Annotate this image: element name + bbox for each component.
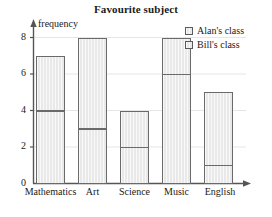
- legend-label-alans-class: Alan's class: [197, 26, 244, 36]
- x-tick-label-art: Art: [78, 187, 107, 197]
- x-tick-label-music: Music: [158, 187, 195, 197]
- y-axis-title: frequency: [38, 18, 78, 29]
- bar-segment-english-alans-class: [204, 92, 233, 166]
- x-tick-label-science: Science: [113, 187, 156, 197]
- chart-container: Favourite subject: [0, 0, 272, 217]
- bar-segment-mathematics-bills-class: [36, 111, 65, 184]
- legend-item-bills-class: Bill's class: [185, 38, 244, 52]
- bar-segment-science-alans-class: [120, 111, 149, 148]
- bar-segment-art-alans-class: [78, 38, 107, 130]
- y-tick-label-8: 8: [12, 32, 26, 42]
- bar-segment-music-bills-class: [162, 74, 191, 184]
- y-tick-label-6: 6: [12, 68, 26, 78]
- y-tick-label-4: 4: [12, 105, 26, 115]
- bar-segment-science-bills-class: [120, 147, 149, 184]
- legend-swatch-icon: [185, 41, 193, 49]
- y-tick-label-2: 2: [12, 141, 26, 151]
- bar-segment-mathematics-alans-class: [36, 56, 65, 111]
- bar-segment-art-bills-class: [78, 129, 107, 184]
- bar-segment-english-bills-class: [204, 165, 233, 183]
- x-tick-label-english: English: [199, 187, 241, 197]
- chart-legend: Alan's class Bill's class: [185, 24, 244, 52]
- legend-label-bills-class: Bill's class: [197, 40, 240, 50]
- legend-item-alans-class: Alan's class: [185, 24, 244, 38]
- legend-swatch-icon: [185, 27, 193, 35]
